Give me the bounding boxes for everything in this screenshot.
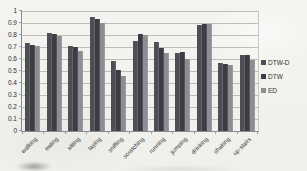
y-tick-label: 0.4 bbox=[0, 79, 19, 86]
bar-group-shaking bbox=[218, 11, 233, 131]
bar-ED-running bbox=[164, 53, 169, 131]
legend-marker-icon bbox=[261, 88, 266, 93]
bar-ED-walking bbox=[35, 46, 40, 131]
y-axis-tick bbox=[19, 22, 22, 23]
x-axis-tick bbox=[86, 131, 87, 134]
bar-ED-sniffing bbox=[121, 76, 126, 131]
legend-item-DTW-D: DTW-D bbox=[261, 59, 290, 66]
x-category-label-drinking: drinking bbox=[190, 136, 210, 156]
y-tick-label: 1 bbox=[0, 7, 19, 14]
bar-ED-shaking bbox=[228, 65, 233, 131]
x-axis-tick bbox=[215, 131, 216, 134]
y-tick-label: 0.8 bbox=[0, 31, 19, 38]
bar-ED-scratching bbox=[143, 35, 148, 131]
plot-area bbox=[21, 11, 259, 132]
x-axis-tick bbox=[257, 131, 258, 134]
bar-group-sniffing bbox=[111, 11, 126, 131]
x-category-label-up-stairs: up-stairs bbox=[232, 136, 253, 157]
bar-ED-jumping bbox=[185, 59, 190, 131]
x-axis-tick bbox=[194, 131, 195, 134]
y-axis-tick bbox=[19, 94, 22, 95]
bar-group-eating bbox=[47, 11, 62, 131]
x-axis-tick bbox=[172, 131, 173, 134]
y-tick-label: 0.1 bbox=[0, 115, 19, 122]
y-axis-tick bbox=[19, 118, 22, 119]
y-tick-label: 0 bbox=[0, 127, 19, 134]
x-axis-tick bbox=[237, 131, 238, 134]
y-axis-labels: 00.10.20.30.40.50.60.70.80.91 bbox=[0, 11, 19, 131]
bar-ED-laying bbox=[100, 23, 105, 131]
x-category-label-shaking: shaking bbox=[212, 136, 232, 156]
y-axis-tick bbox=[19, 70, 22, 71]
bar-group-running bbox=[154, 11, 169, 131]
y-tick-label: 0.6 bbox=[0, 55, 19, 62]
x-category-label-sniffing: sniffing bbox=[106, 136, 124, 154]
bar-ED-sitting bbox=[78, 51, 83, 131]
x-category-label-walking: walking bbox=[20, 136, 39, 155]
x-category-label-eating: eating bbox=[44, 136, 61, 153]
x-category-label-sitting: sitting bbox=[66, 136, 82, 152]
x-category-label-running: running bbox=[148, 136, 167, 155]
legend-label: DTW bbox=[268, 73, 283, 80]
bar-group-jumping bbox=[175, 11, 190, 131]
y-tick-label: 0.7 bbox=[0, 43, 19, 50]
x-axis-tick bbox=[65, 131, 66, 134]
y-tick-label: 0.5 bbox=[0, 67, 19, 74]
bar-group-laying bbox=[90, 11, 105, 131]
bar-group-sitting bbox=[68, 11, 83, 131]
x-axis-tick bbox=[108, 131, 109, 134]
y-tick-label: 0.9 bbox=[0, 19, 19, 26]
legend: DTW-DDTWED bbox=[261, 59, 290, 101]
y-tick-label: 0.2 bbox=[0, 103, 19, 110]
x-axis-tick bbox=[22, 131, 23, 134]
y-tick-label: 0.3 bbox=[0, 91, 19, 98]
bar-ED-up-stairs bbox=[250, 60, 255, 131]
y-axis-tick bbox=[19, 34, 22, 35]
x-axis-tick bbox=[129, 131, 130, 134]
bar-group-drinking bbox=[197, 11, 212, 131]
x-category-label-scratching: scratching bbox=[122, 136, 146, 160]
bar-ED-eating bbox=[57, 36, 62, 131]
x-axis-tick bbox=[43, 131, 44, 134]
legend-item-ED: ED bbox=[261, 87, 290, 94]
y-axis-tick bbox=[19, 10, 22, 11]
bar-chart-figure: 00.10.20.30.40.50.60.70.80.91 walkingeat… bbox=[0, 0, 307, 171]
bar-group-scratching bbox=[133, 11, 148, 131]
x-axis-tick bbox=[151, 131, 152, 134]
bar-group-up-stairs bbox=[240, 11, 255, 131]
bar-group-walking bbox=[25, 11, 40, 131]
y-axis-tick bbox=[19, 106, 22, 107]
legend-marker-icon bbox=[261, 60, 266, 65]
x-category-label-jumping: jumping bbox=[169, 136, 189, 156]
y-axis-tick bbox=[19, 46, 22, 47]
legend-item-DTW: DTW bbox=[261, 73, 290, 80]
legend-marker-icon bbox=[261, 74, 266, 79]
y-axis-tick bbox=[19, 58, 22, 59]
legend-label: ED bbox=[268, 87, 277, 94]
print-streak-artifact bbox=[120, 166, 240, 171]
legend-label: DTW-D bbox=[268, 59, 290, 66]
bar-ED-drinking bbox=[207, 24, 212, 131]
x-category-label-laying: laying bbox=[87, 136, 103, 152]
print-smudge-artifact bbox=[16, 162, 52, 171]
y-axis-tick bbox=[19, 82, 22, 83]
